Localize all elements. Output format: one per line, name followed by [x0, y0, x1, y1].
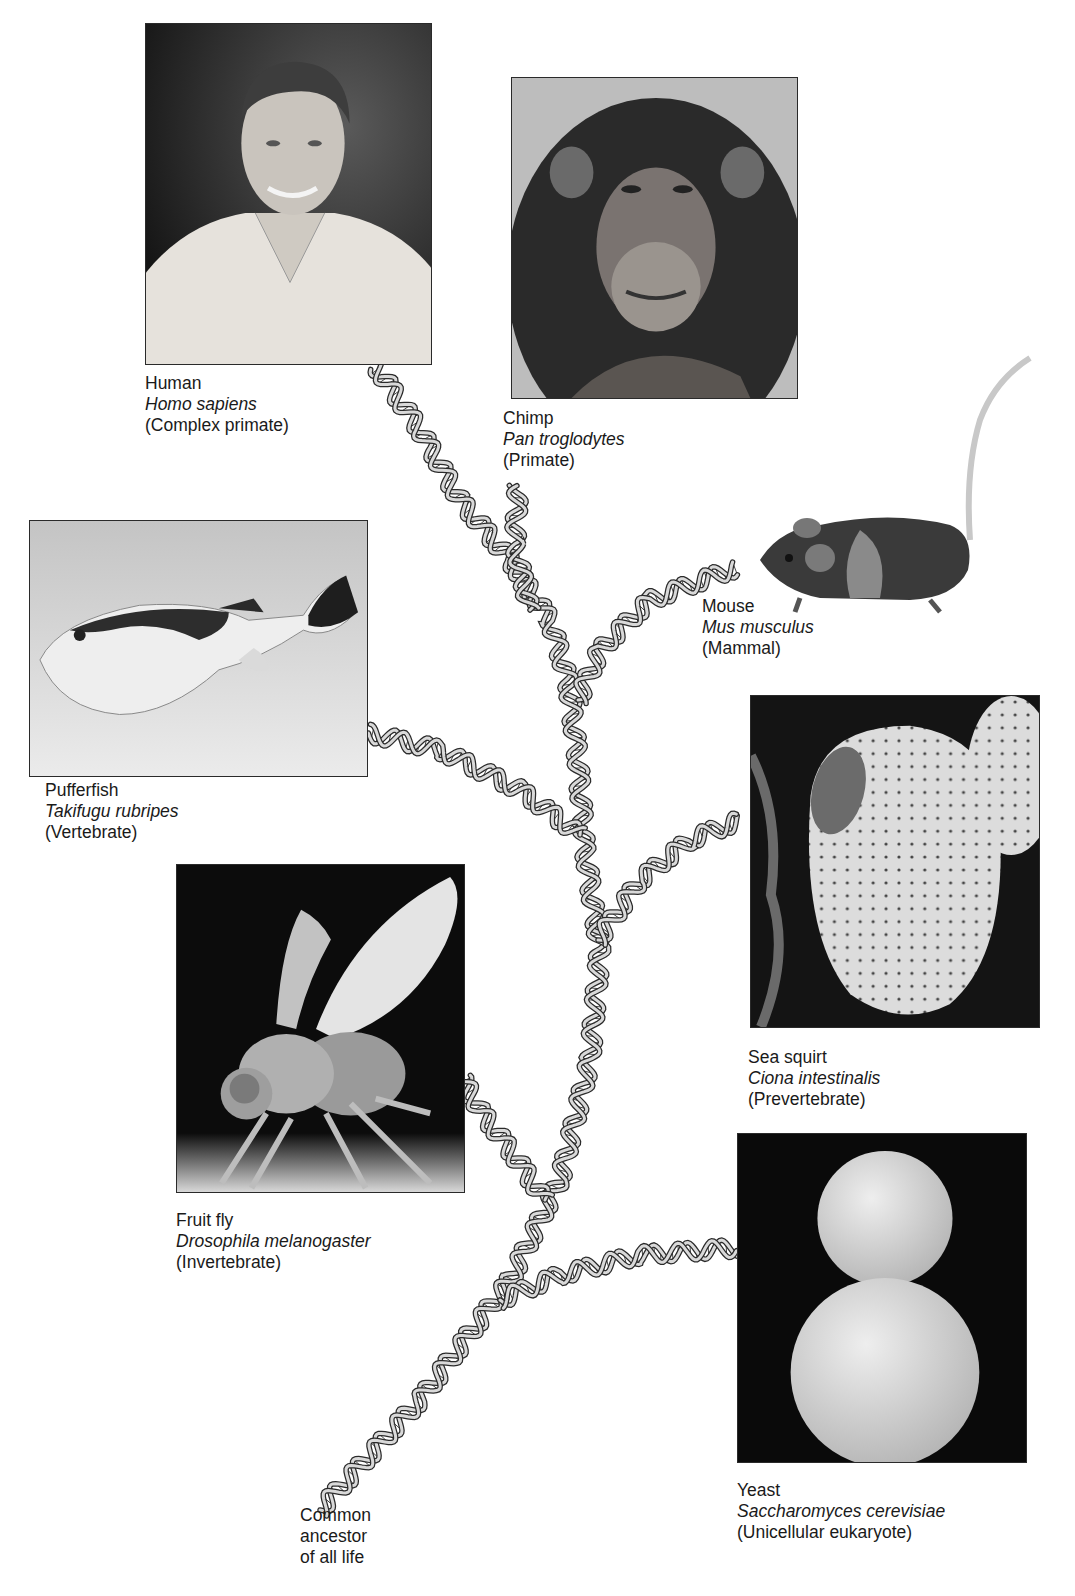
scientific-name: Homo sapiens: [145, 394, 289, 415]
scientific-name: Takifugu rubripes: [45, 801, 179, 822]
common-ancestor-label: Common ancestor of all life: [300, 1505, 371, 1568]
chimp-label: Chimp Pan troglodytes (Primate): [503, 408, 625, 471]
scientific-name: Drosophila melanogaster: [176, 1231, 371, 1252]
classification: (Vertebrate): [45, 822, 179, 843]
common-name: Human: [145, 373, 289, 394]
common-name: Chimp: [503, 408, 625, 429]
human-photo: [145, 23, 432, 365]
common-name: Sea squirt: [748, 1047, 880, 1068]
common-name: Yeast: [737, 1480, 945, 1501]
mouse-image: [740, 350, 1040, 620]
scientific-name: Saccharomyces cerevisiae: [737, 1501, 945, 1522]
seasquirt-label: Sea squirt Ciona intestinalis (Preverteb…: [748, 1047, 880, 1110]
classification: (Invertebrate): [176, 1252, 371, 1273]
yeast-photo: [737, 1133, 1027, 1463]
seasquirt-photo: [750, 695, 1040, 1028]
scientific-name: Pan troglodytes: [503, 429, 625, 450]
classification: (Complex primate): [145, 415, 289, 436]
common-name: Pufferfish: [45, 780, 179, 801]
yeast-label: Yeast Saccharomyces cerevisiae (Unicellu…: [737, 1480, 945, 1543]
fruitfly-label: Fruit fly Drosophila melanogaster (Inver…: [176, 1210, 371, 1273]
classification: (Mammal): [702, 638, 814, 659]
classification: (Unicellular eukaryote): [737, 1522, 945, 1543]
common-name: Mouse: [702, 596, 814, 617]
classification: (Primate): [503, 450, 625, 471]
scientific-name: Ciona intestinalis: [748, 1068, 880, 1089]
pufferfish-photo: [29, 520, 368, 777]
mouse-label: Mouse Mus musculus (Mammal): [702, 596, 814, 659]
scientific-name: Mus musculus: [702, 617, 814, 638]
pufferfish-label: Pufferfish Takifugu rubripes (Vertebrate…: [45, 780, 179, 843]
common-name: Fruit fly: [176, 1210, 371, 1231]
human-label: Human Homo sapiens (Complex primate): [145, 373, 289, 436]
fruitfly-photo: [176, 864, 465, 1193]
classification: (Prevertebrate): [748, 1089, 880, 1110]
